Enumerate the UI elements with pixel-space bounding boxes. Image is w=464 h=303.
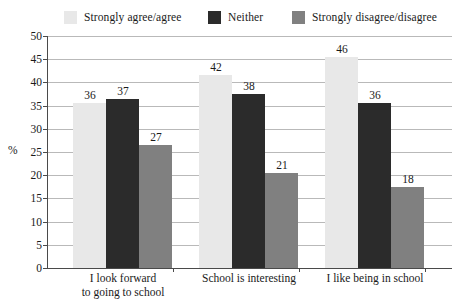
legend-item-label: Strongly agree/agree xyxy=(84,11,181,23)
bar-value-label: 37 xyxy=(103,85,143,97)
bar xyxy=(325,57,358,268)
y-axis-tick-mark xyxy=(43,175,48,176)
bar xyxy=(265,173,298,268)
y-axis-tick-label: 50 xyxy=(20,30,42,42)
x-axis-tick-mark xyxy=(173,268,174,272)
bar xyxy=(232,94,265,268)
y-axis-tick-label: 45 xyxy=(20,53,42,65)
x-axis-category-line: I like being in school xyxy=(295,272,455,286)
bar-group: 463618 xyxy=(325,36,424,268)
y-axis-tick-mark xyxy=(43,59,48,60)
y-axis-tick-mark xyxy=(43,198,48,199)
x-axis-category-line: to going to school xyxy=(43,286,203,300)
x-axis-line xyxy=(47,268,452,269)
y-axis-tick-mark xyxy=(43,36,48,37)
bar-group: 423821 xyxy=(199,36,298,268)
chart-legend: Strongly agree/agree Neither Strongly di… xyxy=(0,8,464,28)
y-axis-tick-labels: 50454035302520151050 xyxy=(14,0,42,303)
y-axis-tick-mark xyxy=(43,245,48,246)
y-axis-tick-label: 40 xyxy=(20,76,42,88)
y-axis-tick-mark xyxy=(43,129,48,130)
plot-area: 363727423821463618 xyxy=(47,36,452,268)
bar-value-label: 27 xyxy=(136,131,176,143)
y-axis-tick-label: 15 xyxy=(20,192,42,204)
bar xyxy=(106,99,139,268)
y-axis-tick-label: 0 xyxy=(20,262,42,274)
bar-value-label: 18 xyxy=(388,173,428,185)
bar xyxy=(358,103,391,268)
legend-swatch-icon xyxy=(208,11,221,24)
bar-value-label: 36 xyxy=(355,89,395,101)
legend-swatch-icon xyxy=(292,11,305,24)
bar-chart: Strongly agree/agree Neither Strongly di… xyxy=(0,0,464,303)
y-axis-tick-label: 20 xyxy=(20,169,42,181)
bar-group: 363727 xyxy=(73,36,172,268)
y-axis-tick-mark xyxy=(43,222,48,223)
y-axis-tick-mark xyxy=(43,268,48,269)
bar-value-label: 38 xyxy=(229,80,269,92)
legend-swatch-icon xyxy=(64,11,77,24)
y-axis-tick-mark xyxy=(43,82,48,83)
y-axis-tick-label: 5 xyxy=(20,239,42,251)
x-axis-category-label: I like being in school xyxy=(295,272,455,286)
bar-value-label: 42 xyxy=(196,61,236,73)
bar-value-label: 21 xyxy=(262,159,302,171)
y-axis-tick-label: 25 xyxy=(20,146,42,158)
legend-item-label: Strongly disagree/disagree xyxy=(312,11,437,23)
x-axis-tick-mark xyxy=(425,268,426,272)
y-axis-tick-mark xyxy=(43,106,48,107)
bar xyxy=(199,75,232,268)
bar xyxy=(391,187,424,268)
y-axis-tick-label: 30 xyxy=(20,123,42,135)
legend-item-strongly-agree: Strongly agree/agree xyxy=(64,8,181,26)
legend-item-label: Neither xyxy=(228,11,263,23)
bar-value-label: 46 xyxy=(322,43,362,55)
legend-item-strongly-disagree: Strongly disagree/disagree xyxy=(292,8,437,26)
bar xyxy=(73,103,106,268)
y-axis-tick-mark xyxy=(43,152,48,153)
y-axis-tick-label: 10 xyxy=(20,216,42,228)
bar xyxy=(139,145,172,268)
y-axis-tick-label: 35 xyxy=(20,100,42,112)
legend-item-neither: Neither xyxy=(208,8,263,26)
x-axis-tick-mark xyxy=(299,268,300,272)
